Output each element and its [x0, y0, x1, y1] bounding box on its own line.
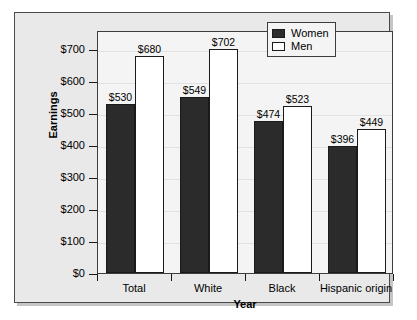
bar-white-women — [180, 97, 209, 273]
y-tick-label: $400 — [39, 140, 85, 151]
x-tick-mark — [171, 274, 172, 281]
y-tick-mark — [89, 242, 97, 243]
y-tick-mark — [89, 210, 97, 211]
legend-label-women: Women — [291, 28, 329, 39]
x-tick-label: White — [171, 282, 245, 294]
bar-value-label: $523 — [277, 94, 318, 105]
legend-item-women: Women — [272, 27, 329, 39]
y-tick-mark — [89, 50, 97, 51]
x-tick-mark — [97, 274, 98, 281]
chart-legend: Women Men — [267, 22, 336, 57]
x-axis-title: Year — [97, 298, 393, 310]
y-tick-mark — [89, 178, 97, 179]
chart-outer-frame: $0$100$200$300$400$500$600$700 Earnings … — [14, 12, 390, 303]
y-tick-label: $200 — [39, 204, 85, 215]
chart-figure: $0$100$200$300$400$500$600$700 Earnings … — [0, 0, 417, 320]
x-tick-mark — [319, 274, 320, 281]
bar-value-label: $680 — [129, 44, 170, 55]
legend-swatch-women-icon — [272, 29, 285, 38]
bar-black-men — [283, 106, 312, 273]
x-tick-label: Black — [245, 282, 319, 294]
bar-black-women — [254, 121, 283, 273]
y-tick-mark — [89, 146, 97, 147]
bar-hispanic-origin-women — [328, 146, 357, 273]
bar-value-label: $449 — [351, 117, 392, 128]
x-tick-mark — [393, 274, 394, 281]
y-tick-mark — [89, 114, 97, 115]
y-tick-mark — [89, 82, 97, 83]
y-tick-label: $0 — [39, 268, 85, 279]
bar-white-men — [209, 49, 238, 273]
bar-hispanic-origin-men — [357, 129, 386, 273]
x-tick-label: Hispanic origin — [319, 282, 393, 294]
y-tick-label: $600 — [39, 76, 85, 87]
plot-area: $530$680$549$702$474$523$396$449 — [97, 31, 393, 274]
bar-value-label: $702 — [203, 37, 244, 48]
legend-label-men: Men — [291, 41, 312, 52]
legend-item-men: Men — [272, 40, 329, 52]
y-tick-mark — [89, 274, 97, 275]
y-tick-label: $500 — [39, 108, 85, 119]
y-tick-label: $700 — [39, 44, 85, 55]
bar-total-women — [106, 104, 135, 273]
x-tick-mark — [245, 274, 246, 281]
y-tick-label: $100 — [39, 236, 85, 247]
y-tick-label: $300 — [39, 172, 85, 183]
x-tick-label: Total — [97, 282, 171, 294]
y-axis-title: Earnings — [47, 55, 59, 175]
bar-total-men — [135, 56, 164, 273]
legend-swatch-men-icon — [272, 42, 285, 51]
